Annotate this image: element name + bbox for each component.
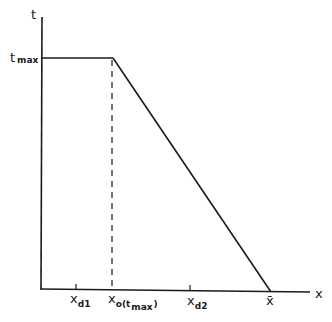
y-axis-label: t [31, 7, 36, 22]
xo-tmax-label: xo(tmax) [108, 291, 158, 312]
decreasing-segment [113, 58, 271, 292]
xd2-label: xd2 [187, 293, 207, 311]
y-axis [41, 17, 42, 290]
tmax-label: tmax [10, 50, 39, 65]
diagram: t x tmax xd1 xo(tmax) xd2 x̄ [0, 0, 332, 322]
x-axis-label: x [315, 286, 323, 301]
xd1-label: xd1 [70, 291, 90, 309]
xbar-label: x̄ [266, 293, 274, 308]
